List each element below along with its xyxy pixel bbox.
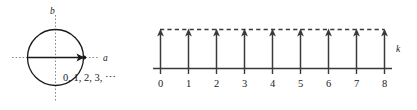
tick-group (161, 69, 385, 75)
figure-canvas: b a 0, 1, 2, 3, ⋯ (0, 0, 417, 110)
axis-label-b: b (50, 6, 55, 16)
axis-label-k: k (396, 44, 401, 54)
tick-label: 1 (186, 78, 191, 89)
phasor-endpoint-dot (82, 56, 86, 60)
tick-label: 0 (158, 78, 163, 89)
sequence-label: 0, 1, 2, 3, ⋯ (63, 72, 116, 83)
tick-label: 4 (270, 78, 276, 89)
tick-label: 7 (354, 78, 359, 89)
unit-circle-diagram (12, 15, 98, 101)
figure-root: b a 0, 1, 2, 3, ⋯ (0, 0, 417, 110)
stem-group (157, 29, 388, 69)
tick-label-group: 0 1 2 3 4 5 6 7 8 (158, 78, 387, 89)
tick-label: 2 (214, 78, 219, 89)
stem-plot (153, 29, 392, 75)
tick-label: 6 (326, 78, 331, 89)
tick-label: 3 (242, 78, 247, 89)
axis-label-a: a (103, 53, 108, 63)
tick-label: 5 (298, 78, 303, 89)
tick-label: 8 (382, 78, 387, 89)
